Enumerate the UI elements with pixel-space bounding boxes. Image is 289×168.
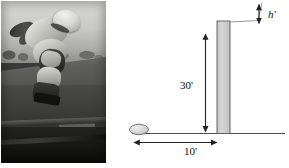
wall-rect [217,21,230,134]
figure-container: 30' 10' h' [0,0,289,168]
skater-photo [1,1,106,163]
trajectory-line [230,21,258,23]
extra-height-label: h' [268,8,276,20]
ball-distance-label: 10' [184,145,197,157]
ball-shape [130,124,149,134]
ramp-diagram [106,0,289,168]
wall-height-label: 30' [180,79,193,91]
photo-vignette [1,1,106,163]
